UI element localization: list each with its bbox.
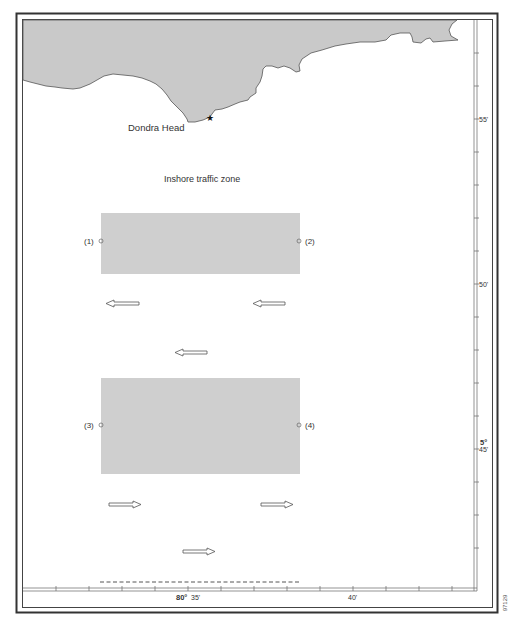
latitude-scale xyxy=(474,20,479,591)
latitude-label-45: 45' xyxy=(479,446,488,453)
longitude-label-35: 35' xyxy=(191,594,200,601)
longitude-label-40: 40' xyxy=(348,594,357,601)
figure-code-text: 97129 xyxy=(502,595,508,612)
point-label-2: (2) xyxy=(305,237,315,246)
latitude-label-55: 55' xyxy=(479,116,488,123)
inner-frame xyxy=(23,20,493,608)
point-label-4: (4) xyxy=(305,421,315,430)
nautical-chart: ★ Dondra Head Inshore traffic zone (1) (… xyxy=(0,0,514,622)
zone-label: Inshore traffic zone xyxy=(164,174,240,184)
arrow-right-icon xyxy=(261,501,293,508)
star-icon: ★ xyxy=(206,113,214,123)
place-label-dondra-head: Dondra Head xyxy=(128,122,185,133)
separation-zone-south xyxy=(101,378,300,474)
arrow-left-icon xyxy=(253,300,285,307)
coastline-land xyxy=(23,20,458,122)
arrow-right-icon xyxy=(183,548,215,555)
longitude-degree-label: 80° xyxy=(176,593,187,602)
separation-zone-north xyxy=(101,213,300,274)
longitude-scale xyxy=(23,586,477,591)
figure-code: 97129 xyxy=(498,588,512,618)
arrow-left-icon xyxy=(106,300,139,307)
arrow-right-icon xyxy=(109,501,141,508)
point-label-1: (1) xyxy=(84,237,94,246)
outer-frame xyxy=(17,14,498,613)
latitude-label-50: 50' xyxy=(479,281,488,288)
point-label-3: (3) xyxy=(84,421,94,430)
arrow-left-icon xyxy=(175,349,207,356)
